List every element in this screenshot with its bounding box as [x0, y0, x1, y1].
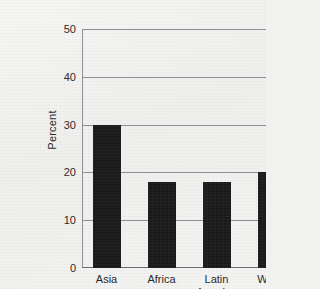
bar: [203, 182, 231, 268]
y-tick-label-10: 10: [64, 214, 76, 226]
y-tick-label-20: 20: [64, 166, 76, 178]
y-axis-title: Percent: [46, 100, 58, 160]
y-tick-label-40: 40: [64, 71, 76, 83]
bar-chart: Percent 01020304050 AsiaAfricaLatin Amer…: [40, 16, 226, 273]
gridline-40: [82, 77, 266, 78]
bar: [148, 182, 176, 268]
x-tick-label: World: [239, 273, 267, 286]
bar: [258, 172, 267, 268]
bar: [93, 125, 121, 268]
y-axis-line: [82, 29, 83, 268]
gridline-50: [82, 29, 266, 30]
plot-area: 01020304050 AsiaAfricaLatin AmericaWorld: [82, 29, 266, 268]
y-tick-label-50: 50: [64, 23, 76, 35]
y-tick-label-30: 30: [64, 119, 76, 131]
